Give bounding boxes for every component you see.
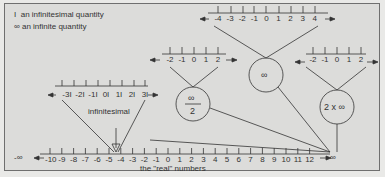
tick-label: -2 [308, 55, 318, 64]
tick-label: 8 [257, 155, 267, 164]
tick-label: 1I [114, 90, 124, 99]
tick-label: 0 [163, 155, 173, 164]
tick-label: 2 [356, 55, 366, 64]
tick-label: 1 [175, 155, 185, 164]
infinitesimal-symbol: I [14, 10, 16, 19]
positive-infinity-label: ∞ [330, 153, 336, 162]
tick-label: 0I [101, 90, 111, 99]
tick-label: -2 [139, 155, 149, 164]
tick-label: -6 [92, 155, 102, 164]
tick-label: -4 [213, 14, 223, 23]
tick-label: -1 [320, 55, 330, 64]
half-infinite-axis-ticks [170, 47, 218, 54]
tick-label: 7 [246, 155, 256, 164]
tick-label: 3I [140, 90, 150, 99]
tick-label: 6 [234, 155, 244, 164]
tick-label: 9 [269, 155, 279, 164]
tick-label: 12 [305, 155, 315, 164]
tick-label: -8 [69, 155, 79, 164]
tick-label: 10 [281, 155, 291, 164]
negative-infinity-label: -∞ [14, 153, 22, 162]
double-infinite-circle-label: 2 x ∞ [324, 102, 345, 112]
tick-label: 3 [198, 155, 208, 164]
double-infinite-axis-ticks [313, 47, 361, 54]
tick-label: -10 [45, 155, 55, 164]
tick-label: -5 [104, 155, 114, 164]
tick-label: 2 [187, 155, 197, 164]
legend-item-infinitesimal: I an infinitesimal quantity [14, 10, 104, 19]
tick-label: -1 [249, 14, 259, 23]
tick-label: 1 [344, 55, 354, 64]
tick-label: -2I [75, 90, 85, 99]
infinitesimal-axis-ticks [62, 80, 145, 86]
tick-label: -9 [57, 155, 67, 164]
tick-label: 4 [210, 155, 220, 164]
tick-label: -7 [80, 155, 90, 164]
tick-label: 4 [310, 14, 320, 23]
tick-label: -4 [116, 155, 126, 164]
tick-label: -1I [88, 90, 98, 99]
infinity-symbol: ∞ [14, 22, 20, 31]
tick-label: -2 [237, 14, 247, 23]
tick-label: 2I [127, 90, 137, 99]
tick-label: 1 [201, 55, 211, 64]
tick-label: -1 [151, 155, 161, 164]
half-infinite-denominator: 2 [190, 106, 195, 116]
tick-label: 1 [274, 14, 284, 23]
tick-label: -3I [62, 90, 72, 99]
infinite-circle-label: ∞ [261, 70, 267, 80]
real-numbers-caption: the "real" numbers [140, 164, 206, 173]
infinite-axis-ticks [218, 6, 315, 13]
main-axis-ticks [50, 148, 310, 154]
tick-label: 2 [213, 55, 223, 64]
tick-label: -2 [165, 55, 175, 64]
half-infinite-numerator: ∞ [188, 93, 194, 103]
tick-label: 3 [298, 14, 308, 23]
tick-label: -3 [225, 14, 235, 23]
tick-label: 5 [222, 155, 232, 164]
tick-label: 0 [189, 55, 199, 64]
tick-label: 0 [332, 55, 342, 64]
legend-item-infinite: ∞ an infinite quantity [14, 22, 86, 31]
infinitesimal-label: infinitesimal [88, 107, 130, 116]
tick-label: -3 [128, 155, 138, 164]
tick-label: 0 [261, 14, 271, 23]
tick-label: 2 [286, 14, 296, 23]
tick-label: -1 [177, 55, 187, 64]
tick-label: 11 [293, 155, 303, 164]
